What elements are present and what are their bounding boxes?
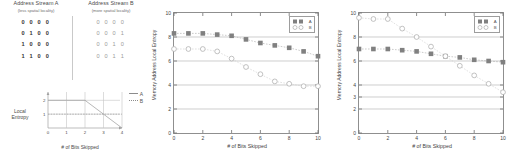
- stream-divider: [72, 16, 73, 80]
- svg-text:0: 0: [47, 130, 50, 135]
- legend-item-b: B: [292, 25, 311, 31]
- open-circle-icon: [477, 25, 491, 30]
- legend-label-b: B: [494, 25, 497, 30]
- chart-right: Memory Address Local Entropy A B 0234681…: [330, 0, 514, 157]
- x-axis-tick: 8: [288, 135, 291, 141]
- address-streams: Address Stream A (less spatial locality)…: [0, 0, 145, 86]
- chart-left-y-axis-label: Memory Address Local Entropy: [148, 0, 160, 130]
- y-axis-tick: 6: [353, 58, 356, 64]
- legend-label-a: A: [309, 19, 312, 24]
- line-sample-icon: [129, 100, 138, 101]
- stream-a-word: 1 0 0 0: [4, 41, 68, 47]
- legend-label-b: B: [309, 25, 312, 30]
- stream-a-title: Address Stream A: [4, 0, 68, 6]
- stream-b-word: 0 0 0 1: [79, 30, 143, 36]
- filled-square-icon: [477, 19, 491, 24]
- stream-a-word: 0 1 0 0: [4, 30, 68, 36]
- legend-label-a: A: [494, 19, 497, 24]
- stream-b-title: Address Stream B: [79, 0, 143, 6]
- x-axis-tick: 2: [201, 135, 204, 141]
- chart-right-y-axis-label: Memory Address Local Entropy: [333, 0, 345, 130]
- y-axis-tick: 2: [353, 106, 356, 112]
- inset-y-axis-label: Local Entropy: [5, 108, 35, 120]
- open-circle-icon: [292, 25, 306, 30]
- inset-local-entropy-chart: Local Entropy 1201234 A B # of Bits Skip…: [0, 88, 145, 157]
- y-axis-tick: 10: [165, 10, 171, 16]
- chart-left-legend: A B: [289, 16, 315, 33]
- stream-b-words: 0 0 0 0 0 0 0 1 0 0 1 0 0 0 1 1: [79, 19, 143, 59]
- x-axis-tick: 4: [230, 135, 233, 141]
- x-axis-tick: 6: [444, 135, 447, 141]
- filled-square-icon: [292, 19, 306, 24]
- y-axis-tick: 4: [168, 82, 171, 88]
- address-stream-a: Address Stream A (less spatial locality)…: [4, 0, 68, 64]
- inset-legend-item: B: [129, 97, 143, 104]
- x-axis-tick: 10: [315, 135, 321, 141]
- inset-svg: 1201234: [38, 92, 122, 138]
- inset-y-axis-label-line2: Entropy: [5, 114, 35, 120]
- stream-a-words: 0 0 0 0 0 1 0 0 1 0 0 0 1 1 0 0: [4, 19, 68, 59]
- inset-plot-area: 1201234: [38, 92, 122, 138]
- y-axis-tick: 0: [353, 130, 356, 136]
- chart-left-plot-area: A B 02468100246810: [173, 12, 319, 134]
- line-sample-icon: [129, 93, 138, 94]
- svg-text:2: 2: [43, 98, 46, 103]
- x-axis-tick: 8: [473, 135, 476, 141]
- x-axis-tick: 2: [386, 135, 389, 141]
- legend-item-b: B: [477, 25, 496, 31]
- stream-b-word: 0 0 1 0: [79, 41, 143, 47]
- address-stream-b: Address Stream B (more spatial locality)…: [79, 0, 143, 64]
- figure-root: Address Stream A (less spatial locality)…: [0, 0, 514, 157]
- inset-legend-label: B: [140, 98, 143, 104]
- svg-text:4: 4: [121, 130, 124, 135]
- y-axis-tick: 4: [353, 82, 356, 88]
- legend-item-a: A: [292, 19, 311, 25]
- svg-text:2: 2: [84, 130, 87, 135]
- inset-legend-item: A: [129, 90, 143, 97]
- x-axis-tick: 10: [500, 135, 506, 141]
- stream-a-word: 1 1 0 0: [4, 53, 68, 59]
- chart-right-legend: A B: [474, 16, 500, 33]
- y-axis-tick: 0: [168, 130, 171, 136]
- inset-legend: A B: [129, 90, 143, 104]
- inset-legend-label: A: [140, 91, 143, 97]
- chart-right-plot-area: A B 023468100246810: [358, 12, 504, 134]
- y-axis-tick: 8: [168, 34, 171, 40]
- x-axis-tick: 0: [173, 135, 176, 141]
- stream-a-word: 0 0 0 0: [4, 19, 68, 25]
- y-axis-tick: 3: [353, 94, 356, 100]
- stream-b-word: 0 0 1 1: [79, 53, 143, 59]
- svg-text:1: 1: [43, 112, 46, 117]
- x-axis-tick: 6: [259, 135, 262, 141]
- inset-x-axis-label: # of Bits Skipped: [38, 144, 122, 150]
- x-axis-tick: 4: [415, 135, 418, 141]
- chart-left-x-axis-label: # of Bits Skipped: [173, 143, 321, 149]
- y-axis-tick: 8: [353, 34, 356, 40]
- chart-right-x-axis-label: # of Bits Skipped: [358, 143, 506, 149]
- legend-item-a: A: [477, 19, 496, 25]
- y-axis-tick: 2: [168, 106, 171, 112]
- y-axis-tick: 6: [168, 58, 171, 64]
- svg-text:1: 1: [65, 130, 68, 135]
- stream-b-word: 0 0 0 0: [79, 19, 143, 25]
- y-axis-tick: 10: [350, 10, 356, 16]
- x-axis-tick: 0: [358, 135, 361, 141]
- stream-a-subtitle: (less spatial locality): [4, 8, 68, 13]
- chart-left: Memory Address Local Entropy A B 0246810…: [145, 0, 329, 157]
- stream-b-subtitle: (more spatial locality): [79, 8, 143, 13]
- svg-text:3: 3: [102, 130, 105, 135]
